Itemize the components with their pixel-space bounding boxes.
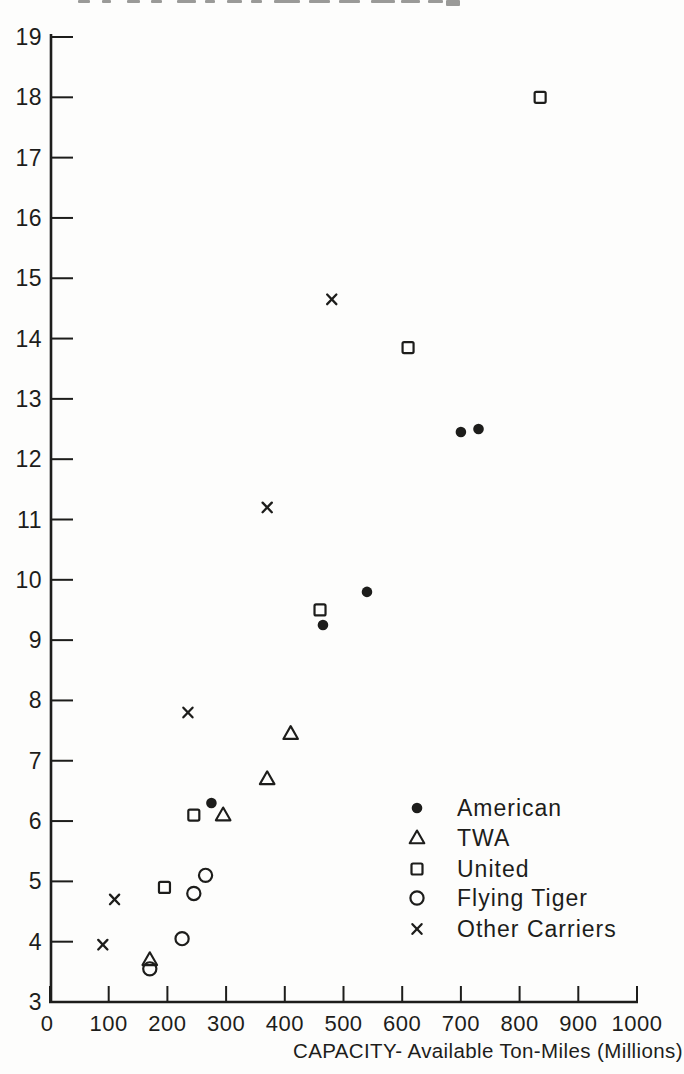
x-tick-label: 100 xyxy=(90,1011,128,1036)
y-tick-label: 8 xyxy=(29,687,42,713)
y-tick-label: 16 xyxy=(15,205,42,231)
legend-row-american: American xyxy=(412,795,562,821)
cropped-text-fragment xyxy=(0,0,684,8)
data-point-american xyxy=(206,798,217,809)
x-axis-title: CAPACITY- Available Ton-Miles (Millions) xyxy=(293,1039,683,1062)
legend-row-flying-tiger: Flying Tiger xyxy=(410,885,587,911)
legend-label-united: United xyxy=(457,856,529,882)
x-tick-label: 500 xyxy=(324,1011,362,1036)
x-tick-label: 1000 xyxy=(612,1011,663,1036)
y-tick-label: 5 xyxy=(29,868,42,894)
legend-row-united: United xyxy=(412,856,530,882)
y-tick-label: 11 xyxy=(17,507,42,533)
data-point-american xyxy=(318,620,329,631)
legend-label-american: American xyxy=(457,795,562,821)
y-tick-label: 7 xyxy=(29,748,42,774)
legend-marker-flying-tiger-icon xyxy=(410,891,423,904)
series-united xyxy=(159,92,546,893)
y-tick-label: 18 xyxy=(15,84,42,110)
series-other-carriers xyxy=(98,295,336,950)
y-tick-label: 4 xyxy=(29,929,42,955)
y-tick-label: 9 xyxy=(29,627,42,653)
x-tick-label: 700 xyxy=(442,1011,480,1036)
legend-marker-united-icon xyxy=(412,864,423,875)
x-tick-label: 900 xyxy=(559,1011,597,1036)
data-point-american xyxy=(362,587,373,598)
legend-marker-twa-icon xyxy=(410,831,425,844)
data-point-flying-tiger xyxy=(187,887,200,900)
data-point-united xyxy=(188,810,199,821)
data-point-united xyxy=(159,882,170,893)
y-tick-label: 13 xyxy=(15,386,42,412)
legend: AmericanTWAUnitedFlying TigerOther Carri… xyxy=(410,795,617,942)
x-tick-label: 800 xyxy=(500,1011,538,1036)
legend-label-twa: TWA xyxy=(457,825,510,851)
data-point-united xyxy=(315,604,326,615)
x-tick-label: 0 xyxy=(41,1011,54,1036)
data-point-american xyxy=(456,427,467,438)
x-tick-label: 400 xyxy=(266,1011,304,1036)
x-tick-label: 200 xyxy=(148,1011,186,1036)
y-tick-label: 6 xyxy=(29,808,42,834)
scatter-plot-page: 3456789101112131415161718190100200300400… xyxy=(0,0,684,1074)
data-point-twa xyxy=(260,771,275,784)
data-point-twa xyxy=(283,726,298,739)
legend-row-other-carriers: Other Carriers xyxy=(412,916,616,942)
series-twa xyxy=(142,726,297,965)
legend-marker-american-icon xyxy=(412,803,423,814)
chart-canvas: 3456789101112131415161718190100200300400… xyxy=(0,0,684,1074)
y-tick-label: 15 xyxy=(15,265,42,291)
legend-label-other-carriers: Other Carriers xyxy=(457,916,617,942)
y-tick-label: 12 xyxy=(15,446,42,472)
x-tick-label: 300 xyxy=(207,1011,245,1036)
x-tick-label: 600 xyxy=(383,1011,421,1036)
data-point-american xyxy=(473,424,484,435)
data-point-united xyxy=(403,342,414,353)
legend-label-flying-tiger: Flying Tiger xyxy=(457,885,588,911)
y-tick-label: 19 xyxy=(15,24,42,50)
series-american xyxy=(206,424,484,809)
y-tick-label: 17 xyxy=(15,145,42,171)
data-point-flying-tiger xyxy=(175,932,188,945)
data-point-united xyxy=(535,92,546,103)
y-tick-label: 10 xyxy=(15,567,42,593)
data-point-flying-tiger xyxy=(199,869,212,882)
legend-row-twa: TWA xyxy=(410,825,511,851)
data-point-twa xyxy=(216,808,231,821)
y-tick-label: 14 xyxy=(15,326,42,352)
